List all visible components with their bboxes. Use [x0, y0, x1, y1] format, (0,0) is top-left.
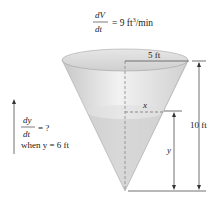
radius-label: 5 ft — [148, 50, 161, 60]
x-label: x — [142, 100, 147, 110]
condition-text: when y = 6 ft — [21, 140, 70, 150]
height-label: 10 ft — [190, 120, 207, 130]
y-label: y — [166, 145, 171, 155]
dt-denominator: dt — [95, 24, 103, 34]
unknown-value: = ? — [38, 123, 49, 133]
dy-numerator: dy — [23, 115, 32, 125]
cone-diagram: dV dt = 9 ft3/min 5 ft x y 10 ft dy dt =… — [0, 0, 220, 204]
rate-value: = 9 ft3/min — [112, 17, 153, 28]
dv-numerator: dV — [95, 10, 107, 20]
dt-denominator-2: dt — [23, 129, 31, 139]
